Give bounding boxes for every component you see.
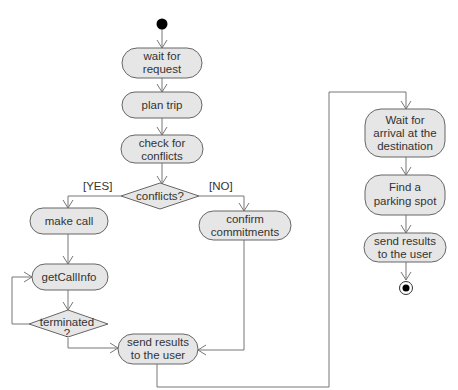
activity-wait-for-arrival: Wait for arrival at the destination xyxy=(365,109,445,157)
svg-text:request: request xyxy=(143,63,182,75)
activity-wait-for-request: wait for request xyxy=(122,48,202,78)
decision-terminated: terminated ? xyxy=(29,310,108,339)
svg-text:arrival at the: arrival at the xyxy=(373,127,436,139)
svg-text:destination: destination xyxy=(377,140,433,152)
activity-plan-trip: plan trip xyxy=(122,92,202,118)
activity-send-results-2: send results to the user xyxy=(364,233,446,262)
svg-text:wait for: wait for xyxy=(142,50,180,62)
svg-text:check for: check for xyxy=(139,137,186,149)
svg-text:to the user: to the user xyxy=(131,349,186,361)
svg-text:getCallInfo: getCallInfo xyxy=(42,271,97,283)
svg-text:send results: send results xyxy=(374,235,436,247)
svg-text:plan trip: plan trip xyxy=(142,99,183,111)
svg-text:to the user: to the user xyxy=(378,248,433,260)
activity-get-call-info: getCallInfo xyxy=(32,264,108,290)
edge-no-to-confirm xyxy=(199,196,244,211)
start-node-icon xyxy=(157,19,168,30)
svg-text:?: ? xyxy=(64,327,70,339)
activity-check-conflicts: check for conflicts xyxy=(121,135,203,163)
activity-make-call: make call xyxy=(30,208,108,234)
svg-text:confirm: confirm xyxy=(226,213,264,225)
svg-text:conflicts: conflicts xyxy=(141,150,183,162)
activity-send-results-1: send results to the user xyxy=(118,334,198,364)
guard-no-label: [NO] xyxy=(209,180,233,192)
svg-text:conflicts?: conflicts? xyxy=(136,190,184,202)
svg-text:Find a: Find a xyxy=(389,181,422,193)
svg-text:make call: make call xyxy=(45,215,94,227)
activity-find-parking: Find a parking spot xyxy=(365,175,445,215)
svg-text:send results: send results xyxy=(127,336,189,348)
end-node-icon xyxy=(400,282,413,295)
edge-yes-to-make-call xyxy=(68,196,121,208)
edge-terminated-loop-back xyxy=(12,277,32,324)
guard-yes-label: [YES] xyxy=(83,180,112,192)
svg-text:Wait for: Wait for xyxy=(385,114,424,126)
svg-text:parking spot: parking spot xyxy=(374,195,437,207)
edge-confirm-to-send-results xyxy=(198,240,244,350)
activity-confirm-commitments: confirm commitments xyxy=(199,211,291,240)
svg-text:commitments: commitments xyxy=(211,226,280,238)
activity-diagram: wait for request plan trip check for con… xyxy=(0,0,458,390)
decision-conflicts: conflicts? xyxy=(121,183,199,209)
